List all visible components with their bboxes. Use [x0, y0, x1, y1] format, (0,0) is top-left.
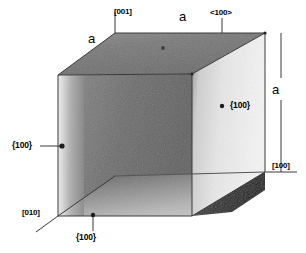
- edge-label-a-top-right: a: [179, 10, 186, 23]
- plane-label-bottom: {100}: [76, 233, 96, 242]
- plane-marker-top: [161, 46, 165, 50]
- plane-marker-bottom: [91, 213, 95, 217]
- plane-marker-right: [220, 104, 224, 108]
- axis-line-010: [36, 216, 58, 232]
- vertex-dot-top-front-right: [190, 72, 193, 75]
- plane-marker-left: [59, 143, 64, 148]
- plane-label-left: {100}: [12, 141, 32, 150]
- axis-label-001: [001]: [114, 8, 132, 16]
- vertex-dot-top-back-right: [263, 31, 266, 34]
- cube-drawing: [0, 0, 306, 253]
- plane-label-right: {100}: [230, 101, 250, 110]
- crystal-unit-cell-figure: [001] a a <100> a {100} {100} [100] [010…: [0, 0, 306, 253]
- axis-label-100: [100]: [272, 162, 290, 170]
- axis-label-010: [010]: [22, 209, 40, 217]
- edge-label-a-top-left: a: [88, 32, 95, 45]
- direction-family-label: <100>: [210, 9, 232, 17]
- edge-label-a-right: a: [272, 83, 279, 96]
- cube-faces: [58, 33, 265, 216]
